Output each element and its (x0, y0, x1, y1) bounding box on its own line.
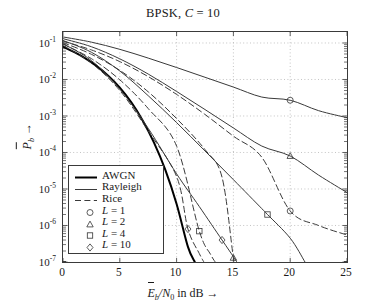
y-tick-label: 10-5 (22, 181, 56, 195)
legend-line-thin (73, 181, 99, 192)
y-axis-label: Pb → (20, 106, 36, 166)
x-axis-label: Eb/N0 in dB → (0, 286, 366, 302)
legend-label: L = 1 (99, 204, 125, 216)
chart-title: BPSK, C = 10 (0, 6, 366, 21)
x-tick-label: 15 (217, 266, 247, 278)
legend-item: L = 10 (73, 239, 159, 251)
y-tick-label: 10-6 (22, 217, 56, 231)
legend-line-thick (73, 169, 99, 180)
legend-marker-square (73, 227, 99, 238)
x-tick-label: 25 (331, 266, 361, 278)
legend-item: L = 1 (73, 204, 159, 216)
x-tick-label: 0 (47, 266, 77, 278)
legend-marker-circle (73, 204, 99, 215)
y-tick-label: 10-2 (22, 71, 56, 85)
legend-marker-diamond (73, 239, 99, 250)
legend-label: L = 2 (99, 215, 125, 227)
legend-marker-triangle (73, 216, 99, 227)
y-tick-label: 10-7 (22, 254, 56, 268)
legend-label: L = 10 (99, 238, 131, 250)
legend-label: Rice (99, 192, 122, 204)
chart-title-prefix: BPSK, (146, 6, 185, 20)
x-tick-label: 10 (161, 266, 191, 278)
chart-title-symbol: C (185, 6, 194, 20)
x-tick-label: 5 (104, 266, 134, 278)
legend-item: AWGN (73, 169, 159, 181)
legend-label: L = 4 (99, 227, 125, 239)
x-tick-label: 20 (274, 266, 304, 278)
legend-item: L = 2 (73, 215, 159, 227)
legend-item: Rice (73, 192, 159, 204)
legend-line-dashed (73, 192, 99, 203)
chart-legend: AWGNRayleighRiceL = 1L = 2L = 4L = 10 (68, 165, 164, 254)
y-tick-label: 10-1 (22, 35, 56, 49)
legend-label: AWGN (99, 169, 135, 181)
legend-item: L = 4 (73, 227, 159, 239)
legend-label: Rayleigh (99, 180, 142, 192)
chart-title-rest: = 10 (193, 6, 220, 20)
legend-item: Rayleigh (73, 181, 159, 193)
chart-container: BPSK, C = 10 0510152025 10-110-210-310-4… (0, 0, 366, 308)
